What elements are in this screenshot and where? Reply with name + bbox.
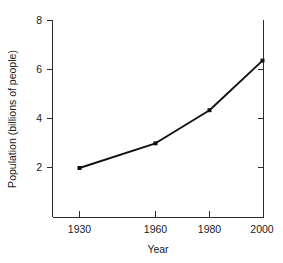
y-tick-label-2: 2 bbox=[36, 161, 42, 173]
x-tick-label-2000: 2000 bbox=[250, 223, 274, 235]
y-tick-label-6: 6 bbox=[36, 63, 42, 75]
data-marker-1960 bbox=[154, 141, 158, 145]
x-tick-label-1980: 1980 bbox=[198, 223, 222, 235]
y-tick-label-4: 4 bbox=[36, 112, 42, 124]
x-tick-label-1960: 1960 bbox=[144, 223, 168, 235]
x-tick-label-1930: 1930 bbox=[68, 223, 92, 235]
y-tick-label-8: 8 bbox=[36, 14, 42, 26]
data-marker-2000 bbox=[261, 59, 265, 63]
y-axis-title: Population (billions of people) bbox=[6, 50, 18, 188]
population-line-chart-figure: 8 6 4 2 1930 1960 1980 2000 Year Populat… bbox=[0, 0, 283, 263]
chart-canvas: 8 6 4 2 1930 1960 1980 2000 Year Populat… bbox=[0, 0, 283, 263]
x-axis-title: Year bbox=[147, 243, 169, 255]
chart-background bbox=[0, 0, 283, 263]
data-marker-1980 bbox=[208, 108, 212, 112]
data-marker-1930 bbox=[78, 166, 82, 170]
